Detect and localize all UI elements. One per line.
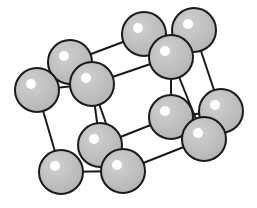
sphere-highlight	[59, 51, 69, 61]
sphere-highlight	[133, 23, 143, 33]
sphere-highlight	[193, 128, 203, 138]
atom-sphere	[70, 62, 114, 106]
sphere-highlight	[89, 134, 99, 144]
sphere-highlight	[160, 106, 170, 116]
sphere-highlight	[210, 100, 220, 110]
atom-sphere	[39, 150, 83, 194]
sphere-highlight	[26, 79, 36, 89]
sphere-highlight	[112, 160, 122, 170]
sphere-highlight	[183, 19, 193, 29]
sphere-highlight	[50, 161, 60, 171]
atom-sphere	[149, 35, 193, 79]
sphere-highlight	[81, 73, 91, 83]
atom-group	[15, 8, 243, 194]
atom-sphere	[101, 149, 145, 193]
atom-sphere	[15, 68, 59, 112]
atom-sphere	[182, 117, 226, 161]
lattice-svg	[0, 0, 257, 208]
sphere-highlight	[160, 46, 170, 56]
crystal-lattice-diagram	[0, 0, 257, 208]
